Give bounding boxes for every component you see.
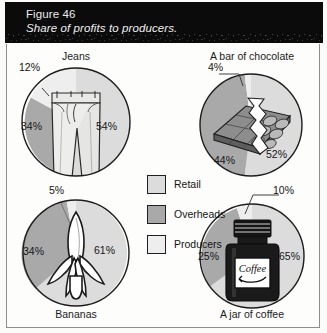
pie-label-chocolate-retail: 52%: [266, 148, 287, 160]
pie-title-chocolate: A bar of chocolate: [187, 50, 317, 62]
pie-label-bananas-producers: 5%: [49, 184, 64, 196]
legend-swatch-producers: [147, 235, 166, 254]
coffee-leader-line: [239, 192, 281, 218]
pie-title-coffee: A jar of coffee: [187, 308, 317, 320]
pie-label-chocolate-overheads: 44%: [214, 154, 235, 166]
figure-root: Figure 46 Share of profits to producers.…: [0, 0, 327, 333]
legend-swatch-retail: [147, 175, 166, 194]
legend-swatch-overheads: [147, 205, 166, 224]
chocolate-leader-line: [217, 72, 247, 96]
legend-label-overheads: Overheads: [174, 208, 225, 220]
legend: Retail Overheads Producers: [147, 175, 243, 265]
legend-item-producers[interactable]: Producers: [147, 235, 243, 265]
pie-label-jeans-overheads: 34%: [21, 120, 42, 132]
pie-label-coffee-retail: 65%: [279, 250, 300, 262]
legend-item-overheads[interactable]: Overheads: [147, 205, 243, 235]
header-speckle-texture: [5, 32, 323, 43]
figure-header-bar: Figure 46 Share of profits to producers.: [5, 2, 323, 43]
figure-number: Figure 46: [26, 7, 177, 21]
legend-item-retail[interactable]: Retail: [147, 175, 243, 205]
pie-chart-chocolate: A bar of chocolate: [187, 50, 317, 175]
legend-label-retail: Retail: [174, 178, 201, 190]
pie-title-bananas: Bananas: [11, 308, 141, 320]
pie-label-bananas-overheads: 34%: [23, 245, 44, 257]
pie-label-jeans-producers: 12%: [19, 61, 40, 73]
pie-label-jeans-retail: 54%: [96, 120, 117, 132]
pie-label-bananas-retail: 61%: [94, 244, 115, 256]
figure-panel: Jeans: [6, 44, 320, 328]
pie-chart-bananas: 5% 34% 61% Bananas: [11, 184, 141, 322]
pie-chart-jeans: Jeans: [11, 50, 141, 175]
legend-label-producers: Producers: [174, 238, 222, 250]
